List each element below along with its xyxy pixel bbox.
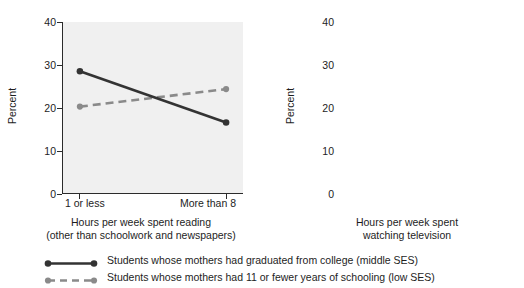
y-tick-label-20-right: 20 — [308, 103, 334, 113]
legend-item-middle-ses: Students whose mothers had graduated fro… — [44, 252, 418, 269]
x-axis-caption-left-line2: (other than schoolwork and newspapers) — [20, 229, 262, 242]
y-tick-mark-0-left — [57, 194, 62, 195]
y-tick-label-40-left: 40 — [30, 17, 56, 27]
series-point-solid-reading-0 — [77, 68, 84, 75]
y-tick-label-10-left: 10 — [30, 146, 56, 156]
series-point-dashed-reading-0 — [77, 104, 83, 110]
x-axis-caption-right: Hours per week spent watching television — [262, 216, 524, 242]
series-point-dashed-reading-1 — [223, 86, 229, 92]
y-tick-label-10-right: 10 — [308, 146, 334, 156]
figure-two-line-charts: Percent 40 30 20 10 0 1 or less More — [0, 0, 524, 288]
y-tick-label-20-left: 20 — [30, 103, 56, 113]
dashed-line-icon — [44, 275, 98, 286]
series-svg-reading — [63, 22, 243, 193]
plot-area-reading — [62, 22, 243, 194]
x-tick-label-left-1: More than 8 — [180, 197, 236, 209]
series-line-solid-reading — [80, 71, 226, 122]
x-axis-caption-left-line1: Hours per week spent reading — [20, 216, 262, 229]
y-tick-label-30-right: 30 — [308, 60, 334, 70]
y-tick-label-0-right: 0 — [308, 189, 334, 199]
chart-panel-television: Percent 40 30 20 10 0 1 or less More — [262, 0, 524, 245]
chart-legend: Students whose mothers had graduated fro… — [0, 249, 524, 288]
y-axis-label-left: Percent — [6, 18, 20, 194]
legend-key-dashed-line-icon — [44, 272, 98, 283]
legend-label-low-ses: Students whose mothers had 11 or fewer y… — [107, 272, 435, 283]
chart-panel-reading: Percent 40 30 20 10 0 1 or less More — [0, 0, 262, 245]
x-axis-caption-right-line2: watching television — [290, 229, 524, 242]
y-tick-label-40-right: 40 — [308, 17, 334, 27]
x-axis-caption-left: Hours per week spent reading (other than… — [0, 216, 262, 242]
x-tick-label-left-0: 1 or less — [65, 197, 105, 209]
y-tick-label-0-left: 0 — [30, 189, 56, 199]
series-point-solid-reading-1 — [223, 119, 230, 126]
legend-key-solid-line-icon — [44, 255, 98, 266]
solid-line-icon — [44, 258, 98, 269]
y-axis-label-right: Percent — [284, 18, 298, 194]
x-axis-caption-right-line1: Hours per week spent — [290, 216, 524, 229]
y-tick-label-30-left: 30 — [30, 60, 56, 70]
legend-item-low-ses: Students whose mothers had 11 or fewer y… — [44, 269, 435, 286]
legend-label-middle-ses: Students whose mothers had graduated fro… — [107, 255, 418, 266]
